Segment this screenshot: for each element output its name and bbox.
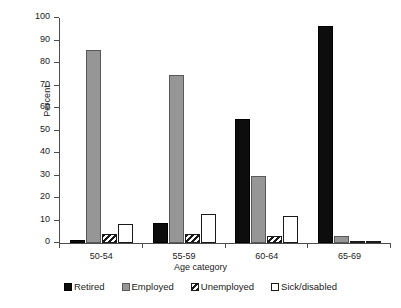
legend-item-unemployed: Unemployed xyxy=(191,281,254,292)
x-axis-title: Age category xyxy=(0,262,401,272)
x-tick-mark xyxy=(307,243,308,248)
y-tick-label: 20 xyxy=(0,191,50,202)
y-tick-mark xyxy=(54,40,59,41)
y-tick-mark xyxy=(54,152,59,153)
y-tick-label: 40 xyxy=(0,146,50,157)
y-tick-label: 60 xyxy=(0,101,50,112)
y-tick-label: 30 xyxy=(0,169,50,180)
bar-retired-65-69 xyxy=(318,26,333,243)
plot-bars xyxy=(60,18,391,243)
bar-unemployed-50-54 xyxy=(102,234,117,243)
x-tick-mark xyxy=(390,243,391,248)
bar-unemployed-55-59 xyxy=(185,234,200,243)
x-tick-label-55-59: 55-59 xyxy=(143,250,226,262)
legend-label: Sick/disabled xyxy=(281,281,337,292)
y-tick-mark xyxy=(54,197,59,198)
bar-retired-55-59 xyxy=(153,223,168,243)
bar-retired-60-64 xyxy=(235,119,250,243)
y-tick-mark xyxy=(54,62,59,63)
y-tick-mark xyxy=(54,17,59,18)
y-tick-label: 10 xyxy=(0,214,50,225)
y-tick-mark xyxy=(54,107,59,108)
bar-sick-disabled-60-64 xyxy=(283,216,298,243)
x-tick-label-65-69: 65-69 xyxy=(308,250,391,262)
x-tick-mark xyxy=(225,243,226,248)
bar-employed-65-69 xyxy=(334,236,349,243)
legend-label: Employed xyxy=(132,281,174,292)
bar-employed-55-59 xyxy=(169,75,184,243)
legend-item-employed: Employed xyxy=(122,281,174,292)
bar-employed-50-54 xyxy=(86,50,101,244)
bar-sick-disabled-65-69 xyxy=(366,241,381,243)
bar-sick-disabled-55-59 xyxy=(201,214,216,243)
legend-item-sick-disabled: Sick/disabled xyxy=(271,281,337,292)
x-tick-mark xyxy=(142,243,143,248)
y-tick-label: 90 xyxy=(0,34,50,45)
y-tick-mark xyxy=(54,130,59,131)
y-tick-mark xyxy=(54,220,59,221)
legend-swatch-employed-icon xyxy=(122,283,130,291)
x-tick-label-50-54: 50-54 xyxy=(60,250,143,262)
bar-retired-50-54 xyxy=(70,240,85,243)
bar-unemployed-65-69 xyxy=(350,241,365,243)
bar-chart: Percent 0102030405060708090100 50-5455-5… xyxy=(0,0,401,308)
x-tick-mark xyxy=(59,243,60,248)
y-tick-mark xyxy=(54,85,59,86)
legend-swatch-unemployed-icon xyxy=(191,283,199,291)
y-tick-mark xyxy=(54,175,59,176)
y-tick-label: 80 xyxy=(0,56,50,67)
legend-label: Retired xyxy=(74,281,105,292)
y-tick-label: 70 xyxy=(0,79,50,90)
legend-swatch-retired-icon xyxy=(64,283,72,291)
y-tick-label: 0 xyxy=(0,236,50,247)
y-tick-label: 100 xyxy=(0,11,50,22)
legend-swatch-sick-disabled-icon xyxy=(271,283,279,291)
y-tick-label: 50 xyxy=(0,124,50,135)
bar-unemployed-60-64 xyxy=(267,236,282,243)
legend-item-retired: Retired xyxy=(64,281,105,292)
x-tick-label-60-64: 60-64 xyxy=(226,250,309,262)
legend-label: Unemployed xyxy=(201,281,254,292)
bar-sick-disabled-50-54 xyxy=(118,224,133,243)
bar-employed-60-64 xyxy=(251,176,266,244)
chart-legend: RetiredEmployedUnemployedSick/disabled xyxy=(0,281,401,292)
